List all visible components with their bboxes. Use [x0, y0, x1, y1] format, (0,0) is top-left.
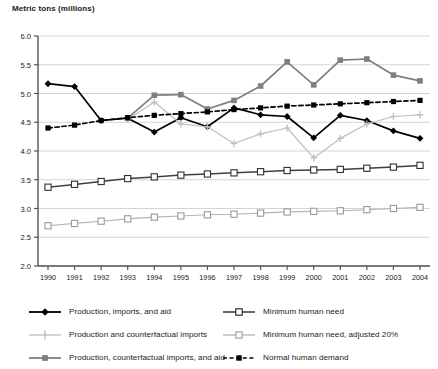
svg-text:3.0: 3.0	[20, 205, 31, 214]
legend-item-production-counterfactual-imports[interactable]: Production and counterfactual imports	[28, 323, 225, 346]
svg-text:2002: 2002	[359, 273, 375, 282]
legend-column-right: Minimum human need Minimum human need, a…	[222, 300, 398, 369]
svg-text:1999: 1999	[279, 273, 295, 282]
legend-swatch-plus	[28, 329, 62, 341]
legend-item-minimum-human-need-adjusted[interactable]: Minimum human need, adjusted 20%	[222, 323, 398, 346]
legend-label: Minimum human need	[263, 307, 344, 316]
legend-swatch-dashed-square	[222, 352, 256, 364]
legend-label: Production, imports, and aid	[69, 307, 171, 316]
series-production-counterfactual-imports-and-aid	[125, 56, 423, 121]
legend-swatch-open-square-light	[222, 329, 256, 341]
chart-legend: Production, imports, and aid Production …	[0, 300, 438, 369]
svg-text:2.0: 2.0	[20, 262, 31, 271]
svg-text:3.5: 3.5	[20, 176, 31, 185]
legend-label: Production and counterfactual imports	[69, 330, 207, 339]
chart-container: Metric tons (millions) 2.02.53.03.54.04.…	[0, 0, 438, 369]
svg-text:2004: 2004	[412, 273, 428, 282]
series-minimum-human-need-adjusted-20	[45, 204, 423, 229]
svg-text:1997: 1997	[226, 273, 242, 282]
legend-swatch-diamond	[28, 306, 62, 318]
legend-item-normal-human-demand[interactable]: Normal human demand	[222, 346, 398, 369]
line-chart-plot: 2.02.53.03.54.04.55.05.56.0 199019911992…	[0, 14, 438, 294]
svg-text:5.0: 5.0	[20, 90, 31, 99]
legend-column-left: Production, imports, and aid Production …	[28, 300, 225, 369]
svg-text:1994: 1994	[146, 273, 162, 282]
svg-text:2000: 2000	[306, 273, 322, 282]
legend-item-production-imports-aid[interactable]: Production, imports, and aid	[28, 300, 225, 323]
svg-text:2.5: 2.5	[20, 233, 31, 242]
series-minimum-human-need	[45, 162, 423, 190]
svg-text:1998: 1998	[252, 273, 268, 282]
legend-label: Production, counterfactual imports, and …	[69, 353, 225, 362]
legend-item-production-counterfactual-imports-aid[interactable]: Production, counterfactual imports, and …	[28, 346, 225, 369]
y-axis-ticks: 2.02.53.03.54.04.55.05.56.0	[20, 32, 38, 271]
series-production-and-counterfactual-imports	[125, 99, 424, 162]
svg-text:1990: 1990	[40, 273, 56, 282]
data-series-group	[45, 56, 424, 229]
svg-text:2001: 2001	[332, 273, 348, 282]
svg-text:5.5: 5.5	[20, 61, 31, 70]
gridlines	[38, 36, 430, 266]
legend-label: Minimum human need, adjusted 20%	[263, 330, 398, 339]
legend-item-minimum-human-need[interactable]: Minimum human need	[222, 300, 398, 323]
svg-text:1996: 1996	[199, 273, 215, 282]
legend-label: Normal human demand	[263, 353, 349, 362]
svg-text:1995: 1995	[173, 273, 189, 282]
svg-text:1993: 1993	[120, 273, 136, 282]
svg-text:1992: 1992	[93, 273, 109, 282]
svg-text:6.0: 6.0	[20, 32, 31, 41]
y-axis-title: Metric tons (millions)	[12, 4, 95, 13]
svg-text:1991: 1991	[66, 273, 82, 282]
legend-swatch-open-square-dark	[222, 306, 256, 318]
svg-text:4.5: 4.5	[20, 118, 31, 127]
legend-swatch-square	[28, 352, 62, 364]
svg-text:2003: 2003	[385, 273, 401, 282]
x-axis-ticks: 1990199119921993199419951996199719981999…	[40, 266, 428, 282]
svg-text:4.0: 4.0	[20, 147, 31, 156]
